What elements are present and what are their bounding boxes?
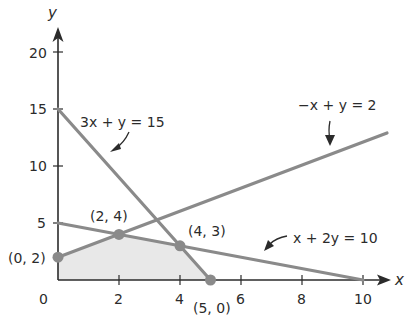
x-axis-label: x <box>394 271 404 289</box>
vertex-2-4 <box>114 229 125 240</box>
y-tick-15: 15 <box>29 101 47 117</box>
equation-label-neg-x-plus-y-2: −x + y = 2 <box>298 97 376 113</box>
y-tick-5: 5 <box>37 215 46 231</box>
vertex-4-3 <box>175 240 186 251</box>
pointer-arrow-icon-eq1 <box>110 132 129 152</box>
equation-label-x-plus-2y-10: x + 2y = 10 <box>293 230 378 246</box>
y-tick-10: 10 <box>29 158 47 174</box>
pointer-arrow-icon-eq3 <box>264 236 287 251</box>
x-tick-6: 6 <box>236 291 245 307</box>
vertex-label-2-4: (2, 4) <box>90 208 128 224</box>
y-axis-label: y <box>47 4 58 22</box>
vertex-label-5-0: (5, 0) <box>193 300 231 316</box>
vertex-0-2 <box>53 252 64 263</box>
feasible-region <box>58 234 211 280</box>
equation-label-3x-plus-y-15: 3x + y = 15 <box>80 114 165 130</box>
vertex-label-4-3: (4, 3) <box>188 223 226 239</box>
x-tick-10: 10 <box>354 291 372 307</box>
x-tick-2: 2 <box>114 291 123 307</box>
x-tick-8: 8 <box>297 291 306 307</box>
y-axis <box>53 27 64 280</box>
vertex-5-0 <box>205 275 216 286</box>
origin-label: 0 <box>39 291 48 307</box>
vertex-label-0-2: (0, 2) <box>8 250 46 266</box>
linear-programming-chart: y x 0 2 4 6 8 10 5 10 15 20 3x + y = 15 … <box>0 0 408 326</box>
x-tick-4: 4 <box>175 291 184 307</box>
y-tick-20: 20 <box>29 45 47 61</box>
pointer-arrow-icon-eq2 <box>325 121 335 146</box>
